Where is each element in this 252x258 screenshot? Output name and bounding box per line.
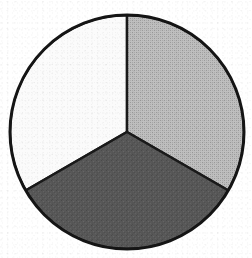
pie-chart-figure: Pie chart with three equal segments [0,0,252,258]
pie-chart-svg [0,0,252,258]
